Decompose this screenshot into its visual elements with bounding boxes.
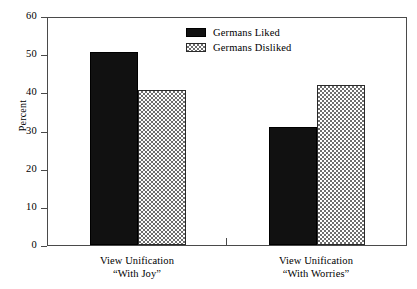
y-axis-tick-label: 60 [0, 11, 37, 21]
x-axis-group-label-line1: View Unification [100, 255, 174, 266]
bar-chart: Percent 6050403020100 View Unification“W… [0, 0, 417, 289]
legend-swatch-disliked [186, 43, 206, 52]
legend-label-disliked: Germans Disliked [213, 42, 292, 53]
x-axis-group-label-line2: “With Joy” [57, 267, 217, 280]
legend-item-germans-liked: Germans Liked [186, 25, 292, 39]
y-axis-tick-label: 40 [0, 87, 37, 97]
y-axis-tick-label: 0 [0, 240, 37, 250]
x-axis-group-label-1: View Unification“With Joy” [57, 254, 217, 280]
legend: Germans Liked Germans Disliked [186, 25, 292, 55]
y-axis-tick-label: 30 [0, 126, 37, 136]
axis-center-tick [226, 238, 227, 246]
x-axis-group-label-line1: View Unification [279, 255, 353, 266]
x-axis-group-label-2: View Unification“With Worries” [236, 254, 396, 280]
y-axis-tick-label: 10 [0, 202, 37, 212]
bar-disliked-group-1 [138, 90, 186, 245]
legend-item-germans-disliked: Germans Disliked [186, 40, 292, 54]
y-axis-tick [41, 246, 47, 247]
y-axis-tick-label: 20 [0, 164, 37, 174]
bar-liked-group-1 [90, 52, 138, 245]
legend-swatch-liked [186, 28, 206, 37]
legend-label-liked: Germans Liked [213, 27, 280, 38]
bar-liked-group-2 [269, 127, 317, 245]
x-axis-group-label-line2: “With Worries” [236, 267, 396, 280]
y-axis-tick-label: 50 [0, 49, 37, 59]
bar-disliked-group-2 [317, 85, 365, 245]
